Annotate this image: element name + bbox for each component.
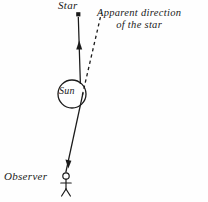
apparent-direction-label-line1: Apparent direction bbox=[97, 7, 181, 18]
star-label: Star bbox=[58, 0, 78, 12]
astronomy-diagram: Star Apparent direction of the star Sun … bbox=[0, 0, 208, 202]
upper-ray-arrowhead-icon bbox=[76, 41, 82, 50]
lower-ray-arrowhead-icon bbox=[65, 160, 71, 169]
observer-label: Observer bbox=[4, 171, 47, 183]
apparent-direction-label-line2: of the star bbox=[97, 19, 181, 31]
star-marker-icon bbox=[76, 12, 80, 16]
apparent-direction-label: Apparent direction of the star bbox=[97, 7, 181, 31]
observer-stick-figure-icon bbox=[61, 173, 71, 196]
sun-label: Sun bbox=[59, 86, 75, 97]
true-ray-upper-line bbox=[78, 17, 80, 84]
